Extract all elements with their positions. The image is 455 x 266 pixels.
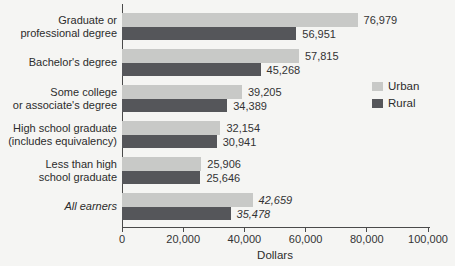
urban-bar xyxy=(122,157,201,171)
x-axis-tick xyxy=(183,228,184,232)
rural-bar xyxy=(122,135,217,149)
category-label: Graduate orprofessional degree xyxy=(0,14,117,40)
urban-bar xyxy=(122,121,220,135)
rural-value-label: 25,646 xyxy=(206,172,240,184)
rural-bar xyxy=(122,207,231,221)
legend-item-rural: Rural xyxy=(372,98,419,108)
rural-value-label: 30,941 xyxy=(223,136,257,148)
urban-bar xyxy=(122,49,299,63)
urban-value-label: 76,979 xyxy=(364,14,398,26)
x-axis-tick-label: 0 xyxy=(90,233,154,245)
legend: Urban Rural xyxy=(372,81,419,115)
urban-bar xyxy=(122,193,253,207)
x-axis-tick-label: 100,000 xyxy=(396,233,455,245)
urban-bar xyxy=(122,85,242,99)
category-label: Some collegeor associate's degree xyxy=(0,86,117,112)
rural-value-label: 56,951 xyxy=(302,28,336,40)
x-axis-tick xyxy=(305,228,306,232)
x-axis-tick-label: 40,000 xyxy=(212,233,276,245)
earnings-by-education-bar-chart: Graduate orprofessional degree76,97956,9… xyxy=(0,0,455,266)
rural-bar xyxy=(122,171,200,185)
urban-value-label: 57,815 xyxy=(305,50,339,62)
rural-bar xyxy=(122,63,261,77)
rural-value-label: 34,389 xyxy=(233,100,267,112)
rural-value-label: 35,478 xyxy=(237,208,271,220)
urban-value-label: 42,659 xyxy=(259,194,293,206)
x-axis-tick xyxy=(122,228,123,232)
x-axis-tick-label: 60,000 xyxy=(274,233,338,245)
x-axis-tick xyxy=(244,228,245,232)
rural-bar xyxy=(122,99,227,113)
urban-value-label: 39,205 xyxy=(248,86,282,98)
x-axis-line xyxy=(122,227,430,228)
x-axis-tick-label: 80,000 xyxy=(335,233,399,245)
urban-value-label: 25,906 xyxy=(207,158,241,170)
category-label: Bachelor's degree xyxy=(0,56,117,69)
rural-value-label: 45,268 xyxy=(267,64,301,76)
x-axis-tick-label: 20,000 xyxy=(151,233,215,245)
category-label: Less than highschool graduate xyxy=(0,158,117,184)
x-axis-tick xyxy=(428,228,429,232)
category-label: All earners xyxy=(0,200,117,213)
urban-legend-swatch-icon xyxy=(372,82,383,91)
urban-bar xyxy=(122,13,358,27)
category-label: High school graduate(includes equivalenc… xyxy=(0,122,117,148)
x-axis-title: Dollars xyxy=(122,249,428,261)
legend-item-urban: Urban xyxy=(372,81,419,91)
rural-bar xyxy=(122,27,296,41)
rural-legend-label: Rural xyxy=(388,97,415,109)
urban-value-label: 32,154 xyxy=(226,122,260,134)
urban-legend-label: Urban xyxy=(388,80,419,92)
x-axis-tick xyxy=(366,228,367,232)
rural-legend-swatch-icon xyxy=(372,99,383,108)
